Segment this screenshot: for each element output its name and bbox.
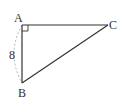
side-ab-length-label: 8 [9,48,15,62]
vertex-label-a: A [14,11,23,25]
triangle-diagram: A B C 8 [0,0,128,106]
right-angle-marker [22,25,28,31]
vertex-label-b: B [18,86,26,100]
vertex-label-c: C [109,18,117,32]
side-ab-length-arc [14,25,22,83]
side-bc [22,25,108,83]
